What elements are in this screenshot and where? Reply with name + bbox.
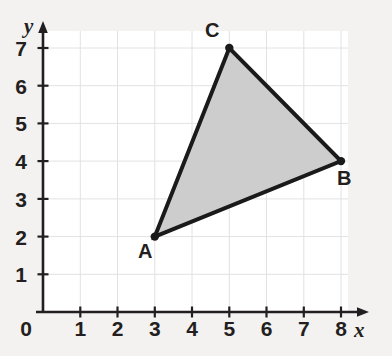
x-tick-label-8: 8 — [328, 318, 354, 339]
coordinate-plane-svg — [0, 0, 392, 356]
x-tick-label-7: 7 — [291, 318, 317, 339]
y-tick-label-3: 3 — [8, 189, 34, 210]
coordinate-plane-figure: y x 0 1 2 3 4 5 6 7 8 1 2 3 4 5 6 7 A B … — [0, 0, 392, 356]
y-tick-label-5: 5 — [8, 113, 34, 134]
vertex-label-b: B — [337, 168, 351, 188]
y-tick-label-2: 2 — [8, 227, 34, 248]
y-tick-label-1: 1 — [8, 264, 34, 285]
x-tick-label-5: 5 — [216, 318, 242, 339]
x-tick-label-1: 1 — [67, 318, 93, 339]
x-axis-arrow-icon — [357, 307, 369, 317]
vertex-label-c: C — [205, 20, 219, 40]
y-axis-label: y — [24, 16, 33, 37]
y-axis-arrow-icon — [38, 21, 48, 33]
vertex-label-a: A — [138, 241, 152, 261]
x-tick-label-3: 3 — [142, 318, 168, 339]
y-tick-label-7: 7 — [8, 38, 34, 59]
x-tick-label-2: 2 — [105, 318, 131, 339]
origin-tick-label: 0 — [13, 318, 39, 339]
y-tick-label-6: 6 — [8, 76, 34, 97]
vertex-point-b — [337, 157, 345, 165]
vertex-point-c — [225, 44, 233, 52]
y-tick-label-4: 4 — [8, 151, 34, 172]
x-tick-label-4: 4 — [179, 318, 205, 339]
x-tick-label-6: 6 — [254, 318, 280, 339]
x-axis-label: x — [354, 320, 365, 341]
